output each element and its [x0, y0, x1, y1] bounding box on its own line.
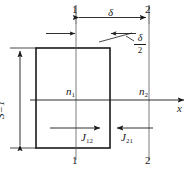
plane-2-bottom-label: 2: [145, 155, 151, 166]
node-2-label: n2: [139, 86, 148, 97]
delta-half-label: δ 2: [134, 33, 146, 55]
x-axis-label: x: [177, 103, 182, 114]
current-j12-subscript: 12: [86, 137, 93, 145]
area-dimension: [10, 48, 36, 148]
area-label: S=1: [0, 101, 6, 119]
plane-1-bottom-label: 1: [72, 155, 78, 166]
node-2-subscript: 2: [145, 91, 149, 99]
node-1-subscript: 1: [72, 91, 76, 99]
diagram-linework: [0, 0, 190, 171]
node-1-label: n1: [66, 86, 75, 97]
plane-1-top-label: 1: [72, 4, 78, 15]
node-2-symbol: n: [139, 85, 145, 97]
node-1-symbol: n: [66, 85, 72, 97]
delta-half-denominator: 2: [134, 45, 146, 55]
plane-2-top-label: 2: [145, 4, 151, 15]
delta-half-numerator: δ: [134, 33, 146, 44]
current-j21-label: J21: [121, 132, 133, 143]
delta-label: δ: [108, 7, 113, 18]
current-j12-label: J12: [81, 132, 93, 143]
delta-half-dimension: [46, 33, 136, 42]
current-j21-subscript: 21: [126, 137, 133, 145]
diffusion-cell-diagram: 1 2 δ δ 2 S=1 n1 n2 x J12 J21 1 2: [0, 0, 190, 171]
